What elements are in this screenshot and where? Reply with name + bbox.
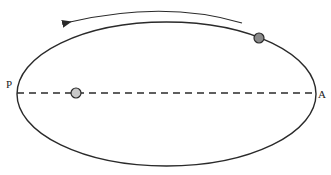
orbit-diagram: P A bbox=[0, 0, 331, 175]
aphelion-label: A bbox=[318, 88, 326, 100]
focus-body bbox=[71, 88, 81, 98]
perihelion-label: P bbox=[6, 78, 12, 90]
orbiting-body bbox=[254, 33, 264, 43]
orbit-ellipse bbox=[17, 22, 316, 166]
direction-arrow-icon bbox=[70, 11, 242, 23]
